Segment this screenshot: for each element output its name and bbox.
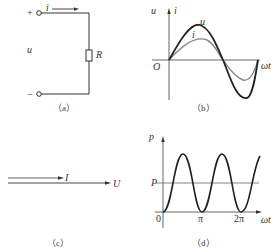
phasor-I-arrow-icon [58, 176, 64, 179]
wire-top [41, 13, 89, 50]
current-label: i [46, 2, 49, 13]
resistor-symbol [86, 50, 92, 61]
tick-2pi: 2π [234, 213, 244, 224]
tick-pi: π [198, 213, 203, 224]
y-label-p: p [148, 131, 154, 142]
y-label-i: i [174, 5, 177, 16]
resistor-label: R [95, 49, 102, 60]
arrow-head-icon [74, 7, 79, 10]
wire-bottom [41, 61, 89, 94]
phasor-U-label: U [113, 178, 121, 189]
curve-i [169, 39, 258, 80]
curve-u [169, 25, 258, 98]
caption-c: （c） [47, 238, 69, 248]
y-label-u: u [151, 5, 156, 16]
origin-label: O [153, 61, 160, 72]
caption-b: （b） [192, 103, 215, 113]
phasor-U-arrow-icon [105, 181, 111, 184]
panel-a-circuit: + − i u R （a） [27, 2, 102, 113]
y-axis-arrow-icon [161, 136, 164, 142]
origin-label: 0 [156, 213, 161, 224]
curve-label-u: u [200, 16, 205, 27]
terminal-plus [37, 11, 42, 16]
x-label: ωt [261, 60, 271, 71]
diagram-canvas: + − i u R （a） u i O ωt u i （b） I U （c） [0, 0, 279, 252]
panel-c-phasors: I U （c） [8, 172, 121, 248]
panel-d-power: p P 0 π 2π ωt （d） [148, 131, 271, 248]
caption-a: （a） [53, 103, 75, 113]
voltage-label: u [27, 44, 32, 55]
minus-sign: − [27, 89, 33, 100]
caption-d: （d） [192, 238, 215, 248]
x-label: ωt [261, 214, 271, 225]
plus-sign: + [27, 7, 33, 18]
terminal-minus [37, 92, 42, 97]
curve-label-i: i [192, 29, 195, 40]
phasor-I-label: I [64, 172, 69, 183]
panel-b-waveforms: u i O ωt u i （b） [151, 5, 271, 113]
y-axis-arrow-icon [167, 8, 170, 14]
avg-label-P: P [150, 177, 157, 188]
